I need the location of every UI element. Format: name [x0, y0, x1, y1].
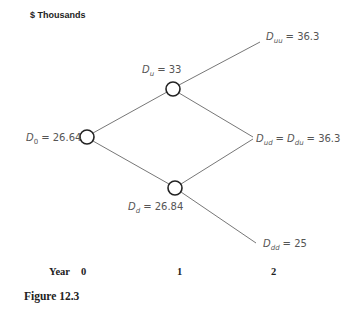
- label-ddd: Ddd= 25: [263, 238, 307, 252]
- label-duu: Duu= 36.3: [266, 31, 319, 45]
- label-d0: D0= 26.64: [26, 132, 81, 146]
- edge-d0-du: [93, 92, 167, 133]
- edge-dd-ddd: [181, 192, 256, 243]
- node-d0: [80, 130, 94, 144]
- label-dd: Dd= 26.84: [128, 201, 183, 215]
- label-dud: Dud=Ddu= 36.3: [256, 133, 340, 147]
- label-du: Du= 33: [142, 64, 181, 78]
- axis-tick-2: 2: [271, 266, 276, 277]
- axis-tick-1: 1: [177, 266, 182, 277]
- node-dd: [168, 181, 182, 195]
- edge-dd-dud: [181, 139, 253, 184]
- edge-d0-dd: [93, 141, 169, 184]
- figure-caption: Figure 12.3: [24, 290, 79, 302]
- edge-du-duu: [179, 42, 260, 85]
- node-du: [166, 82, 180, 96]
- edge-du-dud: [179, 93, 253, 137]
- axis-label-year: Year: [49, 266, 70, 277]
- axis-tick-0: 0: [81, 266, 86, 277]
